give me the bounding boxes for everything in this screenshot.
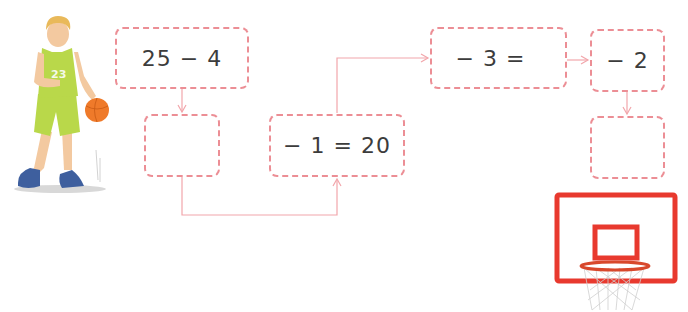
- backboard-target-square: [595, 227, 637, 258]
- basketball-hoop-illustration: [0, 0, 688, 312]
